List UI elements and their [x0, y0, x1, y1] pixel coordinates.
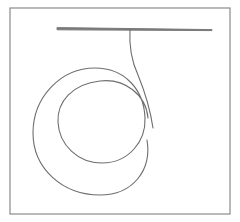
drawing-canvas — [0, 0, 240, 222]
horizontal-bar — [57, 28, 212, 31]
hanging-spiral-string — [33, 29, 153, 195]
picture-frame — [10, 8, 230, 214]
